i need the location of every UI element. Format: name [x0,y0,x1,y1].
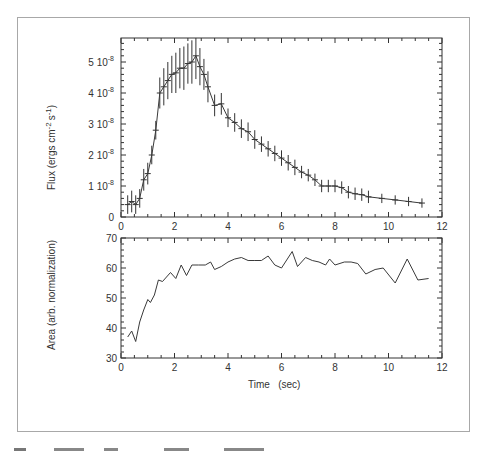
area-x-tick-labels: 024681012 [118,362,448,373]
flux-y-tick-label: 5 10-8 [88,55,114,68]
area-x-tick-label: 0 [118,362,124,373]
area-x-tick-label: 10 [383,362,395,373]
area-x-tick-label: 6 [279,362,285,373]
area-x-tick-label: 2 [172,362,178,373]
flux-plot-area [121,38,442,217]
flux-y-tick-labels: 01 10-82 10-83 10-84 10-85 10-8 [88,55,114,223]
area-x-tick-label: 8 [332,362,338,373]
flux-error-bars [125,38,425,214]
area-axis-ticks [121,238,442,358]
area-panel: 3040506070 024681012 Area (arb. normaliz… [46,233,448,390]
caption-cutoff [14,445,334,451]
flux-x-tick-label: 0 [118,221,124,232]
flux-y-tick-label: 0 [108,212,114,223]
flux-axis-ticks [121,38,442,217]
flux-x-tick-label: 6 [279,221,285,232]
flux-y-tick-label: 3 10-8 [88,117,114,130]
flux-x-tick-label: 8 [332,221,338,232]
time-x-axis-title: Time (sec) [248,379,300,390]
flux-y-tick-label: 1 10-8 [88,179,114,192]
area-y-tick-label: 50 [106,293,118,304]
area-y-tick-label: 60 [106,263,118,274]
area-line [128,252,429,342]
area-y-tick-label: 30 [106,353,118,364]
area-y-tick-labels: 3040506070 [106,233,118,364]
flux-y-tick-label: 4 10-8 [88,86,114,99]
flux-y-axis-title: Flux (ergs cm-2s-1) [44,105,57,190]
area-y-axis-title: Area (arb. normalization) [46,240,57,350]
area-x-tick-label: 12 [436,362,448,373]
flux-x-tick-labels: 024681012 [118,221,448,232]
area-x-tick-label: 4 [225,362,231,373]
area-y-tick-label: 40 [106,323,118,334]
area-plot-area [121,238,442,358]
flux-x-tick-label: 2 [172,221,178,232]
flux-x-tick-label: 12 [436,221,448,232]
flux-x-tick-label: 4 [225,221,231,232]
area-y-tick-label: 70 [106,233,118,244]
flux-panel: 01 10-82 10-83 10-84 10-85 10-8 02468101… [44,38,448,232]
flux-x-tick-label: 10 [383,221,395,232]
flux-y-tick-label: 2 10-8 [88,148,114,161]
